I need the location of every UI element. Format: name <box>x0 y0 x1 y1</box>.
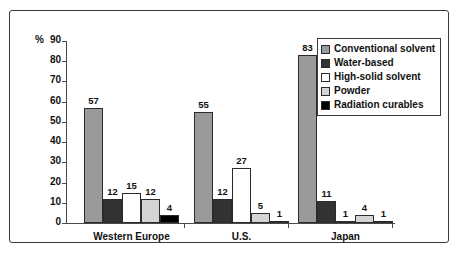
bar-value-label: 27 <box>236 155 247 166</box>
bar[interactable] <box>355 215 374 223</box>
legend-item[interactable]: High-solid solvent <box>321 70 435 84</box>
y-axis-tick-label: 50 <box>50 115 61 126</box>
legend-item[interactable]: Radiation curables <box>321 98 435 112</box>
y-axis-tick-label: 20 <box>50 176 61 187</box>
bar[interactable] <box>317 201 336 223</box>
bar-slot: 12 <box>213 41 232 223</box>
y-axis-tick: 50 <box>66 122 70 123</box>
y-axis-tick-label: 0 <box>55 216 61 227</box>
bar[interactable] <box>232 168 251 223</box>
y-axis-tick-label: 80 <box>50 54 61 65</box>
y-axis-tick-mark <box>62 223 66 224</box>
bar[interactable] <box>374 221 393 223</box>
y-axis-tick-mark <box>62 162 66 163</box>
x-axis-line <box>66 223 395 224</box>
y-axis-tick-mark <box>62 203 66 204</box>
y-axis-tick: 80 <box>66 61 70 62</box>
y-axis-tick-label: 90 <box>50 34 61 45</box>
y-axis-tick: 30 <box>66 162 70 163</box>
bar-group: 55122751U.S. <box>194 41 289 223</box>
y-axis-tick-mark <box>62 183 66 184</box>
y-axis-tick-label: 40 <box>50 135 61 146</box>
y-axis-tick-mark <box>62 102 66 103</box>
y-axis-unit-label: % <box>35 34 44 45</box>
x-axis-separator-tick <box>392 223 393 228</box>
y-axis-tick: 60 <box>66 102 70 103</box>
chart-figure: % 9080706050403020100 571215124Western E… <box>0 0 461 260</box>
y-axis-tick: 20 <box>66 183 70 184</box>
y-axis-tick: 90 <box>66 41 70 42</box>
y-axis-line <box>66 41 67 223</box>
bar-value-label: 1 <box>381 208 386 219</box>
bar[interactable] <box>160 215 179 223</box>
y-axis-tick-label: 60 <box>50 95 61 106</box>
bar[interactable] <box>141 199 160 223</box>
x-axis-separator-tick <box>288 223 289 228</box>
bar[interactable] <box>84 108 103 223</box>
y-axis-tick: 10 <box>66 203 70 204</box>
y-axis-tick: 40 <box>66 142 70 143</box>
legend-item[interactable]: Water-based <box>321 56 435 70</box>
legend-item-label: Powder <box>334 85 370 97</box>
bar-slot: 15 <box>122 41 141 223</box>
x-axis-separator-tick <box>184 223 185 228</box>
bar[interactable] <box>251 213 270 223</box>
x-axis-category-label: Japan <box>331 231 360 242</box>
y-axis-tick-label: 10 <box>50 196 61 207</box>
legend-swatch-icon <box>321 101 330 110</box>
bar-value-label: 83 <box>302 42 313 53</box>
bar[interactable] <box>270 221 289 223</box>
bar-value-label: 4 <box>362 202 367 213</box>
legend-swatch-icon <box>321 73 330 82</box>
y-axis-tick-mark <box>62 41 66 42</box>
legend-item-label: Radiation curables <box>334 99 423 111</box>
bar-slot: 55 <box>194 41 213 223</box>
bar[interactable] <box>103 199 122 223</box>
y-axis-tick-label: 30 <box>50 155 61 166</box>
bar-value-label: 12 <box>217 186 228 197</box>
bar-slot: 12 <box>141 41 160 223</box>
y-axis-tick: 70 <box>66 81 70 82</box>
x-axis-category-label: Western Europe <box>93 231 170 242</box>
legend-item[interactable]: Powder <box>321 84 435 98</box>
legend-item[interactable]: Conventional solvent <box>321 42 435 56</box>
bar[interactable] <box>194 112 213 223</box>
bar-value-label: 15 <box>126 180 137 191</box>
bar-slot: 27 <box>232 41 251 223</box>
bar[interactable] <box>122 193 141 223</box>
bar-slot: 1 <box>270 41 289 223</box>
y-axis-tick-label: 70 <box>50 74 61 85</box>
legend-swatch-icon <box>321 59 330 68</box>
bar-value-label: 1 <box>343 208 348 219</box>
legend-swatch-icon <box>321 45 330 54</box>
legend-swatch-icon <box>321 87 330 96</box>
bar-group-bars: 55122751 <box>194 41 289 223</box>
bar-value-label: 11 <box>321 188 331 199</box>
bar[interactable] <box>213 199 232 223</box>
legend-item-label: Water-based <box>334 57 394 69</box>
legend-item-label: Conventional solvent <box>334 43 435 55</box>
bar[interactable] <box>298 55 317 223</box>
bar-group-bars: 571215124 <box>84 41 179 223</box>
y-axis-tick: 0 <box>66 223 70 224</box>
chart-frame: % 9080706050403020100 571215124Western E… <box>9 10 449 243</box>
bar-value-label: 5 <box>258 200 263 211</box>
bar-value-label: 12 <box>107 186 118 197</box>
bar-value-label: 12 <box>145 186 156 197</box>
legend-item-label: High-solid solvent <box>334 71 421 83</box>
bar-group: 571215124Western Europe <box>84 41 179 223</box>
bar-value-label: 55 <box>198 99 209 110</box>
bar-slot: 57 <box>84 41 103 223</box>
bar[interactable] <box>336 221 355 223</box>
y-axis-tick-mark <box>62 122 66 123</box>
bar-slot: 83 <box>298 41 317 223</box>
y-axis-tick-mark <box>62 142 66 143</box>
bar-value-label: 57 <box>88 95 99 106</box>
chart-legend: Conventional solventWater-basedHigh-soli… <box>317 38 441 116</box>
bar-value-label: 1 <box>277 208 282 219</box>
x-axis-category-label: U.S. <box>232 231 251 242</box>
bar-slot: 5 <box>251 41 270 223</box>
bar-value-label: 4 <box>167 202 172 213</box>
bar-slot: 4 <box>160 41 179 223</box>
y-axis-tick-mark <box>62 81 66 82</box>
